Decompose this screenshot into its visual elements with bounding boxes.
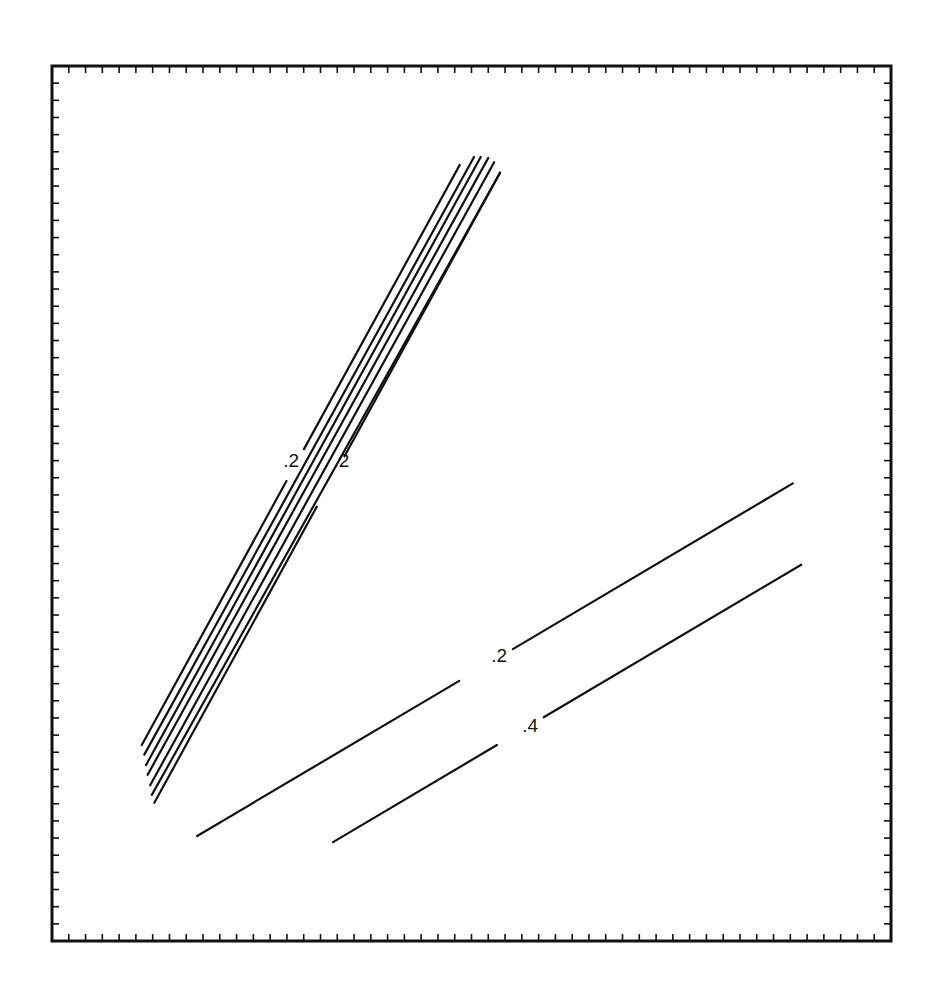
contour-label-bundle-7: .2 [334,450,350,471]
contour-bundle-7-seg-0 [154,507,316,803]
contour-line-lower-a-seg-1 [513,483,793,649]
contour-bundle-7-seg-1 [344,173,500,457]
contour-plot: .2.2.2.4 [0,0,937,1000]
contour-line-lower-b-seg-0 [333,745,497,842]
contour-bundle-1-seg-0 [142,481,287,745]
contour-bundle-3-seg-0 [146,157,481,765]
axis-ticks [52,66,891,941]
contour-label-bundle-1: .2 [283,450,299,471]
contour-bundle-4-seg-0 [148,158,489,775]
contour-bundle-2-seg-0 [144,157,474,755]
plot-frame [52,66,891,941]
contour-bundle-1-seg-1 [304,165,460,449]
contour-lines [142,157,801,842]
contour-line-lower-b-seg-1 [544,565,801,718]
contour-label-line-lower-b: .4 [522,715,538,736]
contour-line-lower-a-seg-0 [197,681,459,836]
contour-label-line-lower-a: .2 [491,645,507,666]
